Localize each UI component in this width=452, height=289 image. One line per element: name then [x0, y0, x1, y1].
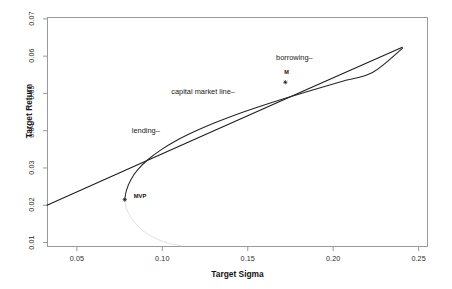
annotation-borrowing: borrowing– — [276, 53, 313, 62]
y-tick-label: 0.02 — [27, 195, 36, 215]
x-axis-title: Target Sigma — [211, 269, 263, 279]
y-axis-title: Target Return — [24, 71, 34, 191]
point-marker-m — [283, 80, 287, 84]
tick-marks — [43, 19, 419, 251]
series-efficient-frontier — [125, 48, 403, 199]
efficient-frontier-chart: 0.050.100.150.200.250.010.020.030.040.05… — [0, 0, 452, 289]
y-tick-label: 0.07 — [27, 8, 36, 28]
y-tick-label: 0.06 — [27, 46, 36, 66]
x-tick-label: 0.15 — [228, 254, 268, 263]
x-tick-label: 0.10 — [142, 254, 182, 263]
y-tick-label: 0.01 — [27, 232, 36, 252]
x-tick-label: 0.05 — [57, 254, 97, 263]
points-layer — [123, 80, 288, 202]
annotation-lending: lending– — [132, 126, 160, 135]
x-tick-label: 0.25 — [399, 254, 439, 263]
point-label-mvp: MVP — [134, 193, 147, 199]
series-inefficient-frontier — [125, 200, 182, 246]
annotation-capitalmarketline: capital market line– — [171, 87, 235, 96]
series-capital-market-line — [47, 47, 402, 205]
point-label-m: M — [284, 69, 289, 75]
point-marker-mvp — [123, 198, 127, 202]
x-tick-label: 0.20 — [313, 254, 353, 263]
plot-canvas — [0, 0, 452, 289]
series-layer — [47, 47, 402, 246]
